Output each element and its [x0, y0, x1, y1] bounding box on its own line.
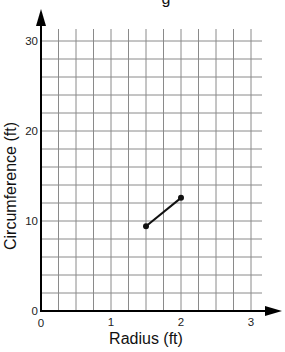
y-tick-label: 0: [32, 305, 38, 317]
y-axis-title: Circumference (ft): [2, 122, 19, 250]
axes: [36, 9, 282, 316]
y-tick-labels: 0102030: [25, 35, 38, 317]
y-tick-label: 20: [25, 125, 38, 137]
chart-title-fragment: g: [162, 0, 171, 7]
chart: g 0123 0102030 Radius (ft) Circumference…: [0, 0, 285, 352]
y-tick-label: 10: [25, 215, 38, 227]
data-point: [178, 195, 184, 201]
x-axis-title: Radius (ft): [109, 330, 183, 347]
data-point: [143, 223, 149, 229]
x-tick-labels: 0123: [38, 316, 254, 329]
x-axis-arrow-icon: [265, 306, 282, 316]
y-axis-arrow-icon: [36, 9, 46, 26]
x-tick-label: 0: [38, 317, 44, 329]
x-tick-label: 2: [178, 316, 184, 328]
grid: [41, 29, 262, 311]
x-tick-label: 1: [108, 316, 114, 328]
y-tick-label: 30: [25, 35, 38, 47]
x-tick-label: 3: [248, 316, 254, 328]
